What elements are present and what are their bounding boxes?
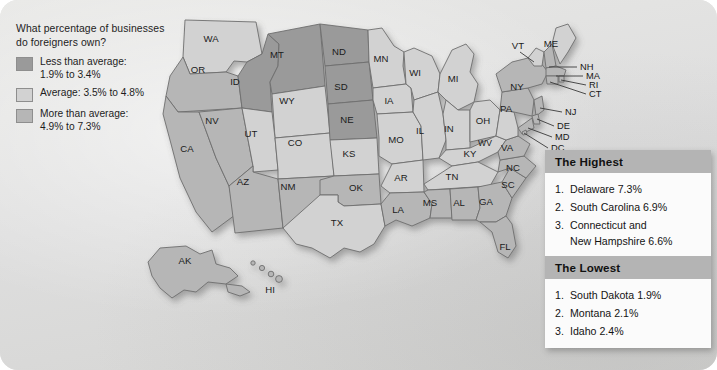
legend-label-less-line-2: 1.9% to 3.4% xyxy=(40,69,127,82)
state-WY xyxy=(272,86,330,138)
state-SD xyxy=(325,62,373,104)
legend-label-less-than-average: Less than average: 1.9% to 3.4% xyxy=(40,56,127,81)
rank-text: Montana 2.1% xyxy=(570,306,703,320)
label-WY: WY xyxy=(279,95,295,106)
label-MS: MS xyxy=(423,197,437,208)
label-FL: FL xyxy=(499,241,511,252)
rank-number: 3. xyxy=(555,324,570,338)
label-GA: GA xyxy=(479,196,493,207)
rank-number: 1. xyxy=(555,288,570,302)
list-item: 2. South Carolina 6.9% xyxy=(545,198,711,216)
state-AK-tail xyxy=(226,284,250,296)
label-KY: KY xyxy=(464,148,477,159)
label-CT: CT xyxy=(589,89,602,99)
label-IN: IN xyxy=(444,123,454,134)
label-AK: AK xyxy=(179,255,192,266)
label-LA: LA xyxy=(392,204,404,215)
state-HI-island-3 xyxy=(268,271,274,277)
label-MN: MN xyxy=(374,53,389,64)
legend-swatch-less-than-average xyxy=(16,57,33,71)
legend-label-average: Average: 3.5% to 4.8% xyxy=(40,87,144,100)
map-legend: What percentage of businesses do foreign… xyxy=(16,22,176,139)
label-NE: NE xyxy=(340,114,353,125)
state-AK xyxy=(148,246,238,298)
state-HI-island-1 xyxy=(251,261,255,265)
rank-text: Connecticut and xyxy=(570,218,703,232)
label-HI: HI xyxy=(265,284,275,295)
list-item: 2. Montana 2.1% xyxy=(545,304,711,322)
state-CO xyxy=(275,133,334,179)
legend-label-average-line-1: Average: 3.5% to 4.8% xyxy=(40,87,144,100)
state-HI-island-2 xyxy=(259,265,264,270)
list-item: 3. Connecticut and xyxy=(545,216,711,234)
legend-item-more-than-average: More than average: 4.9% to 7.3% xyxy=(16,108,176,133)
label-SD: SD xyxy=(334,81,347,92)
label-CO: CO xyxy=(288,137,302,148)
legend-label-less-line-1: Less than average: xyxy=(40,56,127,69)
label-MI: MI xyxy=(448,73,459,84)
label-OK: OK xyxy=(349,182,363,193)
label-TX: TX xyxy=(331,217,344,228)
label-MO: MO xyxy=(388,134,403,145)
rank-text: Delaware 7.3% xyxy=(570,182,703,196)
rank-number: 3. xyxy=(555,218,570,232)
label-VT: VT xyxy=(512,40,524,51)
label-NV: NV xyxy=(205,115,219,126)
label-IL: IL xyxy=(416,125,425,136)
label-AZ: AZ xyxy=(237,176,249,187)
label-IA: IA xyxy=(384,95,394,106)
label-TN: TN xyxy=(446,171,459,182)
label-AL: AL xyxy=(453,197,465,208)
label-ND: ND xyxy=(332,46,346,57)
label-WA: WA xyxy=(203,33,219,44)
leader-RI xyxy=(561,80,586,85)
legend-item-less-than-average: Less than average: 1.9% to 3.4% xyxy=(16,56,176,81)
rank-number: 2. xyxy=(555,306,570,320)
state-HI-island-4 xyxy=(276,276,283,283)
legend-question-line-2: do foreigners own? xyxy=(16,36,176,50)
label-VA: VA xyxy=(501,142,514,153)
label-CA: CA xyxy=(180,143,194,154)
state-WV xyxy=(496,110,518,140)
label-AR: AR xyxy=(394,172,407,183)
lowest-list: 1. South Dakota 1.9% 2. Montana 2.1% 3. … xyxy=(545,279,711,348)
legend-question: What percentage of businesses do foreign… xyxy=(16,22,176,49)
label-OH: OH xyxy=(476,115,490,126)
rank-text: South Carolina 6.9% xyxy=(570,200,703,214)
rank-text: South Dakota 1.9% xyxy=(570,288,703,302)
label-PA: PA xyxy=(500,103,513,114)
legend-label-more-line-1: More than average: xyxy=(40,108,128,121)
choropleth-map-figure: WA OR CA NV ID MT WY UT CO AZ NM ND SD N… xyxy=(0,0,717,370)
rank-number: 2. xyxy=(555,200,570,214)
legend-item-average: Average: 3.5% to 4.8% xyxy=(16,87,176,102)
legend-swatch-more-than-average xyxy=(16,109,33,123)
label-KS: KS xyxy=(343,148,356,159)
legend-label-more-line-2: 4.9% to 7.3% xyxy=(40,121,128,134)
label-NM: NM xyxy=(281,181,296,192)
label-OR: OR xyxy=(191,64,205,75)
lowest-header: The Lowest xyxy=(545,256,711,279)
list-item: 1. South Dakota 1.9% xyxy=(545,286,711,304)
label-ID: ID xyxy=(230,76,240,87)
label-ME: ME xyxy=(544,38,558,49)
state-ND xyxy=(320,24,369,66)
rank-number: 1. xyxy=(555,182,570,196)
highest-list: 1. Delaware 7.3% 2. South Carolina 6.9% … xyxy=(545,173,711,256)
leader-MD xyxy=(528,128,552,137)
highest-header: The Highest xyxy=(545,150,711,173)
list-item: 1. Delaware 7.3% xyxy=(545,180,711,198)
label-WI: WI xyxy=(409,67,421,78)
list-item: 3. Idaho 2.4% xyxy=(545,322,711,340)
label-DE: DE xyxy=(557,121,570,131)
label-MD: MD xyxy=(555,132,570,142)
legend-question-line-1: What percentage of businesses xyxy=(16,22,176,36)
rank-text: Idaho 2.4% xyxy=(570,324,703,338)
label-NY: NY xyxy=(510,81,524,92)
legend-swatch-average xyxy=(16,88,33,102)
rank-text-continuation: New Hampshire 6.6% xyxy=(545,234,711,248)
label-NJ: NJ xyxy=(565,107,576,117)
state-NJ xyxy=(534,96,544,116)
legend-label-more-than-average: More than average: 4.9% to 7.3% xyxy=(40,108,128,133)
label-UT: UT xyxy=(245,128,258,139)
label-WV: WV xyxy=(478,138,492,148)
